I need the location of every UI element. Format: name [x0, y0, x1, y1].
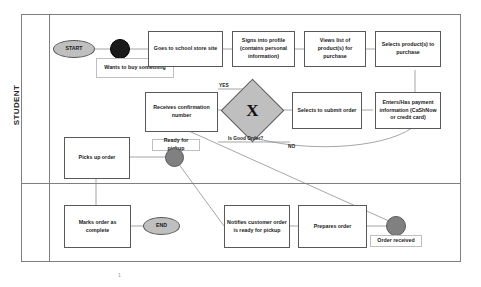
node-views-product-list[interactable]: Views list of product(s) for purchase: [304, 31, 366, 67]
node-start[interactable]: START: [53, 40, 95, 58]
lane-label-column: [21, 14, 50, 262]
node-submit-order[interactable]: Selects to submit order: [292, 92, 362, 129]
node-selects-products[interactable]: Selects product(s) to purchase: [375, 31, 441, 67]
lane-title-student: STUDENT: [12, 25, 21, 185]
ready-for-pickup-event-icon[interactable]: [165, 148, 184, 167]
page-marker: 1: [118, 272, 121, 278]
start-event-icon[interactable]: [110, 39, 130, 59]
node-receives-confirmation[interactable]: Receives confirmation number: [145, 92, 218, 132]
lane-title-martinez: MR. MARTINEZ: [12, 264, 21, 287]
node-signs-into-profile[interactable]: Signs into profile (contains personal in…: [232, 31, 295, 67]
node-goes-to-store-site[interactable]: Goes to school store site: [148, 31, 223, 67]
node-marks-order-complete[interactable]: Marks order as complete: [64, 205, 131, 248]
node-notifies-customer[interactable]: Notifies customer order is ready for pic…: [224, 205, 290, 248]
edge-label-yes: YES: [219, 83, 229, 88]
flowchart-canvas: STUDENT MR. MARTINEZ: [0, 0, 481, 287]
edge-label-is-good-order: Is Good Order?: [228, 136, 263, 141]
order-received-event-icon[interactable]: [386, 216, 406, 236]
lane-divider: [21, 183, 461, 184]
node-payment-information[interactable]: Enters/Has payment information (CaShNow …: [375, 92, 441, 129]
decision-x-label: X: [230, 88, 275, 133]
edge-label-no: NO: [288, 144, 295, 149]
node-end[interactable]: END: [143, 217, 180, 235]
callout-order-received: Order received: [370, 235, 422, 247]
node-picks-up-order[interactable]: Picks up order: [64, 137, 130, 179]
node-prepares-order[interactable]: Prepares order: [298, 205, 367, 248]
